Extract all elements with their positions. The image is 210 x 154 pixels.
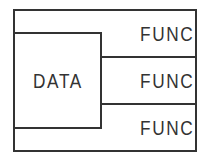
func-label-2: FUNC [140,70,194,91]
data-label: DATA [33,70,83,91]
func-divider-1 [100,56,197,58]
func-divider-2 [100,103,197,105]
func-label-1: FUNC [140,23,194,44]
func-label-3: FUNC [140,117,194,138]
